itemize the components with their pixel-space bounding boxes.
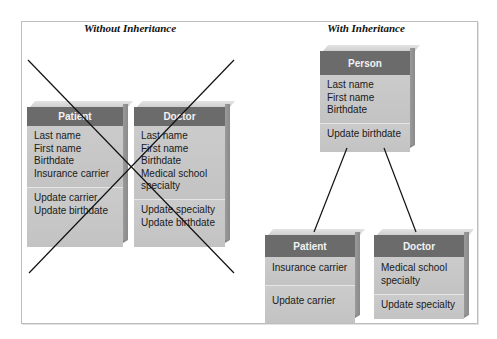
attribute: specialty xyxy=(381,275,458,288)
box-bevel-side xyxy=(464,232,469,315)
class-header: Person xyxy=(320,51,410,75)
method: Update carrier xyxy=(34,192,117,205)
attribute: First name xyxy=(141,143,219,156)
box-bevel-top xyxy=(323,45,420,51)
class-box-doctor-child: Doctor Medical school specialty Update s… xyxy=(374,235,464,318)
class-attributes: Medical school specialty xyxy=(374,257,464,294)
class-header: Doctor xyxy=(134,107,225,126)
panel-title-without-inheritance: Without Inheritance xyxy=(84,22,176,34)
class-box-patient-child: Patient Insurance carrier Update carrier xyxy=(265,235,355,318)
method: Update birthdate xyxy=(34,205,117,218)
box-bevel-side xyxy=(355,232,360,315)
box-bevel-top xyxy=(377,229,474,235)
class-box-person: Person Last name First name Birthdate Up… xyxy=(320,51,410,148)
attribute: Last name xyxy=(141,130,219,143)
attribute: Birthdate xyxy=(327,104,404,117)
attribute: Birthdate xyxy=(141,155,219,168)
method: Update birthdate xyxy=(141,217,219,230)
box-bevel-top xyxy=(268,229,365,235)
class-methods: Update specialty Update birthdate xyxy=(134,199,225,247)
box-bevel-side xyxy=(123,104,128,240)
attribute: Medical school xyxy=(141,168,219,181)
attribute: Medical school xyxy=(381,262,458,275)
class-box-patient-no-inheritance: Patient Last name First name Birthdate I… xyxy=(27,107,123,243)
class-header: Patient xyxy=(27,107,123,126)
attribute: First name xyxy=(327,92,404,105)
attribute: specialty xyxy=(141,180,219,193)
method: Update specialty xyxy=(141,204,219,217)
box-bevel-side xyxy=(410,48,415,145)
class-attributes: Last name First name Birthdate Insurance… xyxy=(27,126,123,187)
method: Update carrier xyxy=(272,295,349,308)
attribute: First name xyxy=(34,143,117,156)
box-bevel-top xyxy=(137,101,235,107)
class-attributes: Insurance carrier xyxy=(265,257,355,285)
attribute: Birthdate xyxy=(34,155,117,168)
method: Update specialty xyxy=(381,299,458,312)
class-box-doctor-no-inheritance: Doctor Last name First name Birthdate Me… xyxy=(134,107,225,243)
class-methods: Update carrier Update birthdate xyxy=(27,187,123,247)
box-bevel-side xyxy=(225,104,230,240)
class-header: Patient xyxy=(265,235,355,257)
class-header: Doctor xyxy=(374,235,464,257)
attribute: Insurance carrier xyxy=(34,168,117,181)
class-attributes: Last name First name Birthdate xyxy=(320,75,410,123)
method: Update birthdate xyxy=(327,128,404,141)
attribute: Last name xyxy=(327,79,404,92)
class-attributes: Last name First name Birthdate Medical s… xyxy=(134,126,225,199)
attribute: Insurance carrier xyxy=(272,262,349,275)
class-methods: Update specialty xyxy=(374,294,464,319)
attribute: Last name xyxy=(34,130,117,143)
class-methods: Update carrier xyxy=(265,285,355,323)
panel-title-with-inheritance: With Inheritance xyxy=(327,22,405,34)
class-methods: Update birthdate xyxy=(320,123,410,152)
box-bevel-top xyxy=(30,101,133,107)
